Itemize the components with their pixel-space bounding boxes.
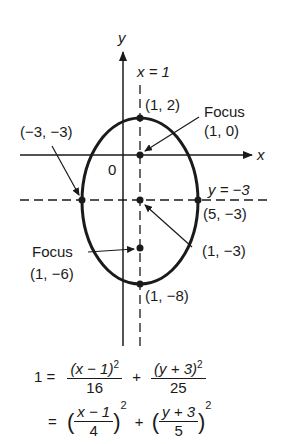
point-top-vertex bbox=[137, 115, 144, 122]
eq-term3-num: x − 1 bbox=[74, 403, 113, 422]
equation-line-1: 1 = (x − 1)2 16 + (y + 3)2 25 bbox=[34, 356, 206, 397]
fraction-x-normalized: x − 1 4 bbox=[74, 403, 113, 440]
eq-term2-num: (y + 3) bbox=[154, 360, 197, 377]
eq-plus-2: + bbox=[135, 413, 144, 430]
equation-line-2: = ( x − 1 4 )2 + ( y + 3 5 )2 bbox=[48, 403, 211, 440]
point-left-vertex bbox=[79, 197, 86, 204]
label-center: (1, −3) bbox=[202, 243, 246, 259]
arrow-upper-focus bbox=[145, 117, 199, 151]
fraction-x-term: (x − 1)2 16 bbox=[67, 356, 122, 397]
label-lower-focus-title: Focus bbox=[32, 244, 73, 260]
line-label-y-equals-minus-3: y = −3 bbox=[208, 182, 250, 198]
line-label-x-equals-1: x = 1 bbox=[137, 64, 170, 80]
label-bottom-vertex: (1, −8) bbox=[145, 288, 189, 304]
y-axis-label: y bbox=[118, 30, 126, 46]
eq-term4-num: y + 3 bbox=[159, 403, 198, 422]
x-axis-label: x bbox=[257, 147, 265, 163]
fraction-y-normalized: y + 3 5 bbox=[159, 403, 198, 440]
label-upper-focus-title: Focus bbox=[204, 104, 245, 120]
eq-lhs: 1 = bbox=[34, 368, 55, 385]
eq-term3-exp: 2 bbox=[121, 399, 127, 411]
arrow-left-vertex bbox=[52, 146, 79, 195]
origin-label: 0 bbox=[108, 162, 116, 178]
label-left-vertex: (−3, −3) bbox=[20, 124, 73, 140]
label-lower-focus: (1, −6) bbox=[30, 266, 74, 282]
eq-term1-num: (x − 1) bbox=[70, 360, 113, 377]
point-upper-focus bbox=[137, 152, 144, 159]
eq-line2-lhs: = bbox=[48, 413, 57, 430]
point-right-vertex bbox=[195, 197, 202, 204]
fraction-y-term: (y + 3)2 25 bbox=[151, 356, 206, 397]
label-upper-focus: (1, 0) bbox=[204, 123, 239, 139]
label-top-vertex: (1, 2) bbox=[145, 97, 180, 113]
point-lower-focus bbox=[137, 245, 144, 252]
eq-term4-den: 5 bbox=[159, 422, 198, 440]
eq-plus-1: + bbox=[132, 368, 141, 385]
point-bottom-vertex bbox=[137, 281, 144, 288]
eq-term2-exp: 2 bbox=[197, 359, 203, 370]
eq-term1-den: 16 bbox=[67, 379, 122, 397]
eq-term3-den: 4 bbox=[74, 422, 113, 440]
arrow-center bbox=[145, 205, 192, 247]
eq-term2-den: 25 bbox=[151, 379, 206, 397]
eq-term4-exp: 2 bbox=[205, 399, 211, 411]
label-right-vertex: (5, −3) bbox=[203, 206, 247, 222]
point-center bbox=[137, 197, 144, 204]
eq-term1-exp: 2 bbox=[113, 359, 119, 370]
